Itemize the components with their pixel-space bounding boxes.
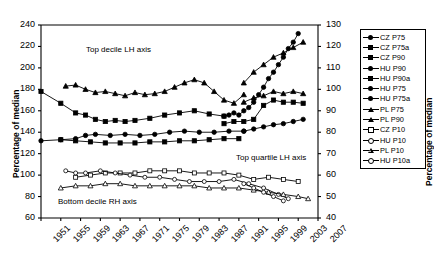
- series-hu-p90a: [241, 40, 306, 85]
- legend-label: PL P90: [380, 115, 404, 124]
- legend-marker-icon: [363, 64, 379, 73]
- legend-marker-icon: [363, 146, 379, 155]
- legend-item-cz-p10[interactable]: CZ P10: [363, 125, 423, 135]
- legend-item-hu-p10[interactable]: HU P10: [363, 135, 423, 145]
- legend-marker-icon: [363, 105, 379, 114]
- legend-label: CZ P90: [380, 53, 405, 62]
- legend-item-hu-p75a[interactable]: HU P75a: [363, 94, 423, 104]
- legend-marker-icon: [363, 84, 379, 93]
- legend-item-pl-p75[interactable]: PL P75: [363, 104, 423, 114]
- legend-label: HU P90a: [380, 74, 410, 83]
- legend-label: CZ P10: [380, 125, 405, 134]
- legend-marker-icon: [363, 136, 379, 145]
- legend-marker-icon: [363, 115, 379, 124]
- legend-item-cz-p75a[interactable]: CZ P75a: [363, 42, 423, 52]
- legend-label: HU P10: [380, 136, 406, 145]
- annotation-top-quartile: Top quartile LH axis: [236, 153, 306, 162]
- legend-marker-icon: [363, 74, 379, 83]
- legend-label: PL P75: [380, 105, 404, 114]
- legend-label: PL P10: [380, 146, 404, 155]
- legend-item-hu-p10a[interactable]: HU P10a: [363, 156, 423, 166]
- legend-item-cz-p90[interactable]: CZ P90: [363, 53, 423, 63]
- legend-item-hu-p75[interactable]: HU P75: [363, 83, 423, 93]
- legend-marker-icon: [363, 33, 379, 42]
- legend-marker-icon: [363, 94, 379, 103]
- legend-item-hu-p90a[interactable]: HU P90a: [363, 73, 423, 83]
- legend-item-cz-p75[interactable]: CZ P75: [363, 32, 423, 42]
- legend-marker-icon: [363, 156, 379, 165]
- legend-label: CZ P75a: [380, 43, 409, 52]
- legend-marker-icon: [363, 125, 379, 134]
- annotation-bottom-decile: Bottom decile RH axis: [58, 197, 137, 206]
- legend-marker-icon: [363, 43, 379, 52]
- legend-label: CZ P75: [380, 33, 405, 42]
- legend-marker-icon: [363, 53, 379, 62]
- legend-item-pl-p10[interactable]: PL P10: [363, 145, 423, 155]
- chart-legend: CZ P75CZ P75aCZ P90HU P90HU P90aHU P75HU…: [360, 29, 426, 169]
- series-hu-p90: [63, 77, 246, 105]
- legend-label: HU P75a: [380, 94, 410, 103]
- legend-label: HU P75: [380, 84, 406, 93]
- series-hu-p75: [39, 129, 246, 143]
- legend-label: HU P10a: [380, 156, 410, 165]
- annotation-top-decile: Top decile LH axis: [86, 45, 151, 54]
- legend-item-hu-p90[interactable]: HU P90: [363, 63, 423, 73]
- legend-item-pl-p90[interactable]: PL P90: [363, 114, 423, 124]
- legend-label: HU P90: [380, 64, 406, 73]
